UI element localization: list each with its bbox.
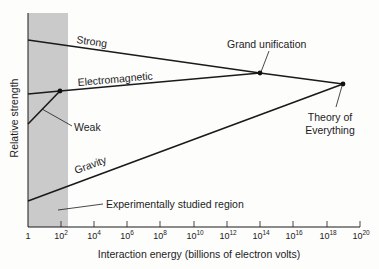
toe-label-line1: Theory of [308,111,352,123]
tick-label: 102 [54,229,68,241]
x-ticks [61,221,360,227]
tick-label: 1012 [219,229,237,241]
grand-unification-leader [261,51,269,72]
toe-leader [336,86,342,107]
theory-of-everything-point [341,82,346,87]
x-tick-labels: 1 102 104 106 108 1010 1012 1014 1016 10… [25,229,370,241]
weak-label: Weak [74,121,101,133]
electroweak-point [58,89,63,94]
tick-label: 104 [87,229,101,241]
x-axis-label: Interaction energy (billions of electron… [98,248,301,260]
gravity-force-line [28,84,343,201]
experimental-region-label: Experimentally studied region [106,198,244,210]
toe-label-line2: Everything [305,124,355,136]
tick-label: 1018 [319,229,337,241]
tick-label: 1014 [252,229,270,241]
tick-label: 1010 [186,229,204,241]
tick-label: 106 [120,229,134,241]
unification-diagram: 1 102 104 106 108 1010 1012 1014 1016 10… [0,0,379,269]
electromagnetic-label: Electromagnetic [77,69,153,88]
tick-label: 1020 [352,229,370,241]
y-axis-label: Relative strength [8,78,20,157]
grand-unification-label: Grand unification [227,38,307,50]
tick-label: 1016 [285,229,303,241]
tick-label: 1 [25,231,30,241]
tick-label: 108 [153,229,167,241]
